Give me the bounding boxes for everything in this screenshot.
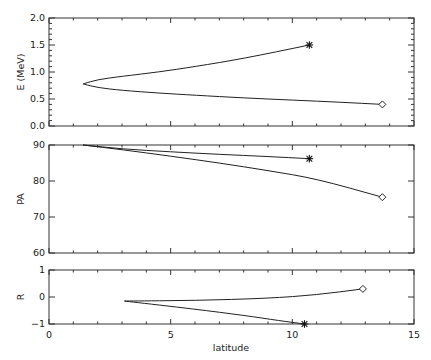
bottom-plot-frame xyxy=(49,270,414,324)
top-ylabel: E (MeV) xyxy=(15,54,26,91)
middle-ytick-1: 70 xyxy=(33,211,45,222)
bottom-branch-diamond-line xyxy=(124,289,362,301)
middle-plot-frame xyxy=(49,145,414,253)
bottom-asterisk-marker xyxy=(301,320,309,328)
axis-ticks xyxy=(49,18,414,324)
xtick-3: 15 xyxy=(408,329,420,340)
top-ytick-0: 0.0 xyxy=(30,120,45,131)
middle-branch-asterisk-line xyxy=(83,145,309,159)
middle-diamond-marker xyxy=(379,194,386,201)
bottom-ytick-2: 1 xyxy=(39,264,45,275)
bottom-ytick-0: −1 xyxy=(31,318,45,329)
top-branch-diamond-line xyxy=(83,84,382,105)
bottom-ytick-1: 0 xyxy=(39,291,45,302)
xtick-1: 5 xyxy=(168,329,174,340)
middle-branch-diamond-line xyxy=(83,145,382,197)
middle-ytick-3: 90 xyxy=(33,139,45,150)
x-axis-label: latitude xyxy=(213,342,250,353)
middle-asterisk-marker xyxy=(306,155,314,163)
top-diamond-marker xyxy=(379,101,386,108)
data-markers xyxy=(301,41,386,328)
top-ytick-3: 1.5 xyxy=(30,39,45,50)
top-plot-frame xyxy=(49,18,414,126)
xtick-0: 0 xyxy=(46,329,52,340)
top-branch-asterisk-line xyxy=(83,45,309,84)
bottom-diamond-marker xyxy=(359,285,366,292)
chart-svg: 0.0 0.5 1.0 1.5 2.0 60 70 80 90 −1 0 1 0… xyxy=(0,0,431,360)
middle-ytick-2: 80 xyxy=(33,175,45,186)
top-ytick-2: 1.0 xyxy=(30,66,45,77)
top-ytick-4: 2.0 xyxy=(30,12,45,23)
xtick-2: 10 xyxy=(286,329,298,340)
top-asterisk-marker xyxy=(306,41,314,49)
middle-ytick-0: 60 xyxy=(33,247,45,258)
bottom-branch-asterisk-line xyxy=(124,301,304,324)
middle-ylabel: PA xyxy=(15,193,26,205)
bottom-ylabel: R xyxy=(15,293,26,300)
data-curves xyxy=(83,45,382,324)
top-ytick-1: 0.5 xyxy=(30,93,45,104)
